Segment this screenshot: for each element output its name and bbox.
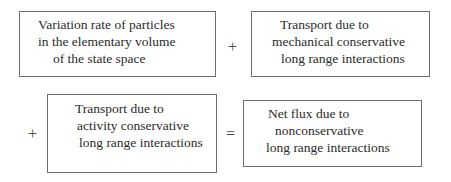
term-line: long range interactions <box>266 140 390 156</box>
term-box-mechanical-transport: Transport due to mechanical conservative… <box>251 11 430 77</box>
term-line: Transport due to <box>75 101 164 117</box>
term-line: nonconservative <box>275 123 363 139</box>
term-line: in the elementary volume <box>38 34 176 50</box>
plus-operator: + <box>28 126 37 142</box>
term-box-variation-rate: Variation rate of particles in the eleme… <box>19 11 216 77</box>
term-line: Transport due to <box>280 17 369 33</box>
term-line: Net flux due to <box>268 106 349 122</box>
term-line: activity conservative <box>77 118 189 134</box>
equals-operator: = <box>226 126 235 142</box>
term-box-net-flux: Net flux due to nonconservative long ran… <box>243 100 422 167</box>
term-box-activity-transport: Transport due to activity conservative l… <box>47 94 217 173</box>
term-line: long range interactions <box>79 135 203 151</box>
term-line: mechanical conservative <box>272 34 405 50</box>
plus-operator: + <box>228 39 237 55</box>
term-line: of the state space <box>53 51 146 67</box>
term-line: Variation rate of particles <box>38 17 175 33</box>
term-line: long range interactions <box>281 51 405 67</box>
